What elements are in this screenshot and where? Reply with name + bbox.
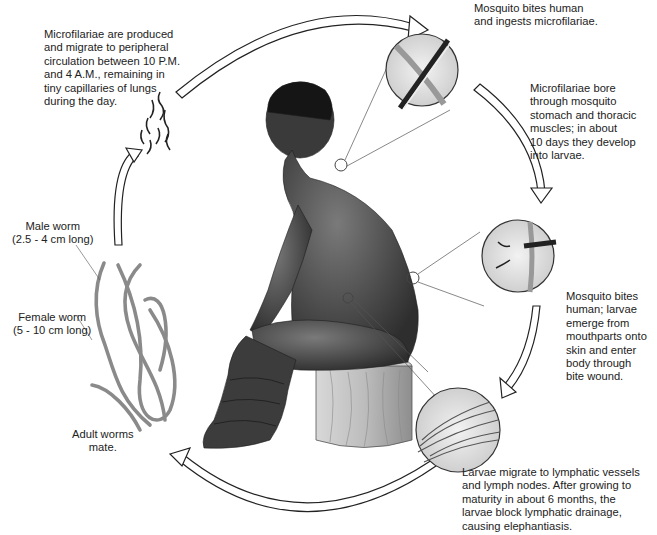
label-lymphatic: Larvae migrate to lymphatic vessels and … xyxy=(462,466,640,533)
label-bore-through: Microfilariae bore through mosquito stom… xyxy=(530,82,636,162)
label-male-worm: Male worm (2.5 - 4 cm long) xyxy=(12,220,93,247)
inset-mosquito-ingests xyxy=(386,34,458,108)
label-microfilariae: Microfilariae are produced and migrate t… xyxy=(44,28,180,108)
cycle-arrow-bottom xyxy=(170,448,436,512)
label-female-worm: Female worm (5 - 10 cm long) xyxy=(13,311,91,338)
cycle-arrow-left xyxy=(114,148,142,245)
label-mosquito-transmits: Mosquito bites human; larvae emerge from… xyxy=(566,290,647,384)
inset-mosquito-transmits xyxy=(482,220,556,292)
label-mosquito-ingests: Mosquito bites human and ingests microfi… xyxy=(474,2,598,29)
cycle-arrow-right-lower xyxy=(500,306,540,398)
adult-worms-illustration xyxy=(92,263,175,430)
inset-lymphatic xyxy=(416,388,500,472)
label-adults-mate: Adult worms mate. xyxy=(72,428,134,455)
